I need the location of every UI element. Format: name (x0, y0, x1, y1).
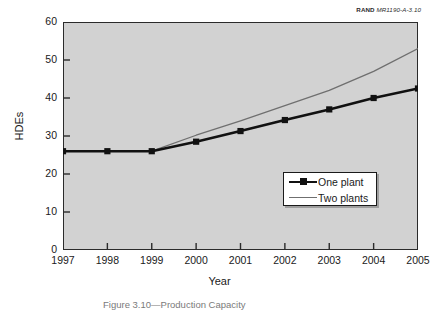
series-line-one-plant (63, 89, 418, 152)
legend-swatch-one-plant-icon (288, 175, 318, 189)
data-point-marker (63, 148, 66, 154)
data-point-marker (326, 106, 332, 112)
y-axis-tick-label: 20 (17, 167, 57, 179)
axis-tick-marks (63, 60, 374, 250)
x-axis-tick-label: 1998 (84, 254, 130, 266)
legend: One plant Two plants (283, 172, 377, 206)
x-axis-tick-label: 2000 (173, 254, 219, 266)
y-axis-tick-label: 10 (17, 205, 57, 217)
x-axis-tick-label: 1997 (40, 254, 86, 266)
chart-plot (63, 22, 418, 250)
data-point-marker (371, 95, 377, 101)
figure-caption-clipped: Figure 3.10—Production Capacity (0, 299, 439, 310)
x-axis-tick-label: 2002 (262, 254, 308, 266)
data-point-marker (237, 128, 243, 134)
legend-label-one-plant: One plant (318, 176, 364, 188)
y-axis-title: HDEs (13, 91, 25, 161)
x-axis-tick-label: 2004 (351, 254, 397, 266)
y-axis-tick-label: 60 (17, 15, 57, 27)
source-credit: RAND MR1190-A-3.10 (356, 6, 421, 13)
y-axis-tick-label: 50 (17, 53, 57, 65)
legend-item-one-plant: One plant (284, 173, 378, 190)
data-point-marker (282, 117, 288, 123)
data-point-marker (104, 148, 110, 154)
x-axis-tick-label: 2001 (218, 254, 264, 266)
x-axis-tick-label: 2005 (395, 254, 439, 266)
legend-swatch-two-plants-icon (288, 191, 318, 205)
data-series-group (63, 49, 418, 155)
data-point-marker (149, 148, 155, 154)
figure-caption-text: Figure 3.10—Production Capacity (103, 299, 246, 310)
legend-item-two-plants: Two plants (284, 189, 378, 206)
source-credit-code: MR1190-A-3.10 (376, 6, 421, 13)
x-axis-tick-label: 1999 (129, 254, 175, 266)
x-axis-tick-label: 2003 (306, 254, 352, 266)
source-credit-org: RAND (356, 6, 374, 13)
data-point-marker (193, 139, 199, 145)
figure-container: RAND MR1190-A-3.10 0102030405060 1997199… (0, 0, 439, 310)
legend-label-two-plants: Two plants (318, 192, 368, 204)
data-point-marker (415, 85, 418, 91)
x-axis-title: Year (0, 275, 439, 287)
